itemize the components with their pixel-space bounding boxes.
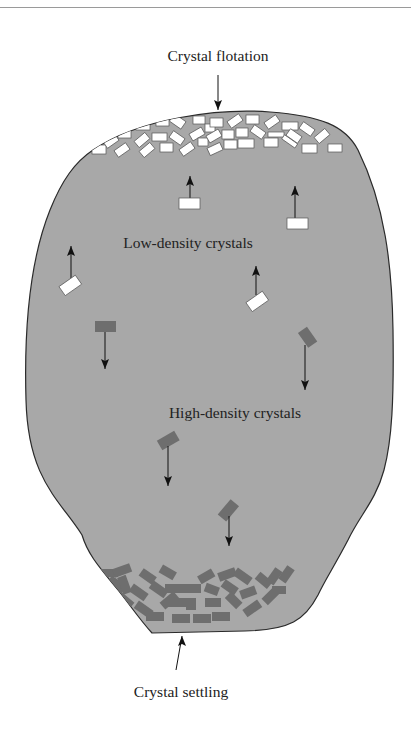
label-crystal-flotation: Crystal flotation — [167, 47, 268, 64]
settling-arrow — [176, 636, 182, 670]
label-crystal-settling: Crystal settling — [134, 683, 229, 700]
magma-chamber-diagram: Crystal flotation Low-density crystals H… — [0, 0, 411, 730]
label-high-density-crystals: High-density crystals — [169, 404, 301, 421]
magma-chamber — [26, 111, 394, 633]
label-low-density-crystals: Low-density crystals — [123, 234, 253, 251]
